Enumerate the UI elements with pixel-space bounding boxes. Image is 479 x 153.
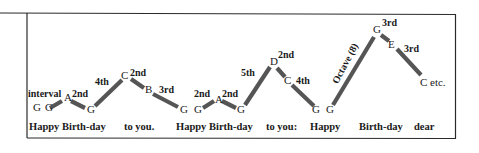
note-d: D bbox=[270, 55, 278, 67]
note-e: E bbox=[388, 38, 395, 50]
note-c: C bbox=[121, 69, 128, 81]
note-b: B bbox=[145, 83, 152, 95]
interval-bar bbox=[292, 85, 314, 106]
note-g: G bbox=[194, 103, 202, 115]
interval-label: 2nd bbox=[278, 49, 295, 60]
lyrics-line: Happy Birth-dayto you.Happy Birth-dayto … bbox=[29, 121, 435, 132]
interval-label: 4th bbox=[296, 75, 310, 86]
lyric-word: dear bbox=[414, 121, 435, 132]
interval-label: 4th bbox=[95, 76, 109, 87]
interval-label: 2nd bbox=[222, 88, 239, 99]
etc-label: etc. bbox=[430, 76, 446, 88]
note-c: C bbox=[284, 74, 291, 86]
note-names: GGAGCBGGAGDCGGGEC bbox=[33, 23, 427, 115]
interval-label: 3rd bbox=[404, 43, 419, 54]
interval-bar bbox=[71, 101, 85, 108]
lyric-word: Birth-day bbox=[359, 121, 404, 132]
bottom-border bbox=[27, 138, 456, 139]
note-g: G bbox=[326, 103, 334, 115]
interval-label: 3rd bbox=[382, 17, 397, 28]
note-g: G bbox=[87, 103, 95, 115]
interval-bar bbox=[222, 101, 236, 108]
note-g: G bbox=[33, 101, 41, 113]
lyric-word: Happy bbox=[310, 121, 341, 132]
interval-label: 3rd bbox=[159, 84, 174, 95]
note-c: C bbox=[420, 76, 427, 88]
note-g: G bbox=[237, 103, 245, 115]
note-g: G bbox=[180, 103, 188, 115]
interval-diagram: GGAGCBGGAGDCGGGEC interval2nd4th2nd3rd2n… bbox=[0, 0, 479, 153]
interval-label: 5th bbox=[241, 67, 255, 78]
note-g: G bbox=[373, 23, 381, 35]
interval-bar bbox=[131, 79, 144, 88]
etc-text: etc. bbox=[430, 76, 446, 88]
interval-bar bbox=[203, 101, 214, 108]
interval-bar bbox=[153, 94, 178, 107]
interval-label: 2nd bbox=[130, 67, 147, 78]
interval-label: 2nd bbox=[72, 88, 89, 99]
lyric-word: Happy Birth-day bbox=[29, 121, 106, 132]
top-rule bbox=[0, 13, 456, 15]
interval-label: interval bbox=[28, 88, 62, 99]
note-g: G bbox=[45, 101, 53, 113]
note-g: G bbox=[312, 103, 320, 115]
frame bbox=[0, 13, 456, 139]
lyric-word: to you. bbox=[124, 121, 155, 132]
interval-label: 2nd bbox=[194, 88, 211, 99]
note-a: A bbox=[64, 91, 72, 103]
lyric-word: to you: bbox=[266, 121, 297, 132]
lyric-word: Happy Birth-day bbox=[176, 121, 253, 132]
